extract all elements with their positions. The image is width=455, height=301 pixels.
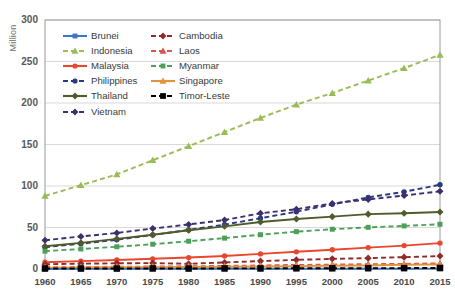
data-point-marker [257,265,263,271]
legend-item-indonesia[interactable]: Indonesia [62,43,150,58]
legend-swatch-philippines [62,75,88,87]
data-point-marker [293,216,300,223]
legend-item-label: Timor-Leste [179,91,230,101]
data-point-marker [329,213,336,220]
legend-item-malaysia[interactable]: Malaysia [62,58,150,73]
series-vietnam [41,188,443,244]
legend-item-timor-leste[interactable]: Timor-Leste [150,89,245,104]
legend-item-label: Cambodia [179,31,223,41]
x-tick-label: 1960 [28,276,62,287]
legend-item-brunei[interactable]: Brunei [62,28,150,43]
legend-swatch-singapore [150,75,176,87]
data-point-marker [294,249,299,254]
data-point-marker [258,251,263,256]
data-point-marker [77,182,84,189]
legend-item-cambodia[interactable]: Cambodia [150,28,245,43]
data-point-marker [160,32,167,39]
data-point-marker [294,229,299,234]
data-point-marker [436,188,443,195]
legend-swatch-indonesia [62,45,88,57]
data-point-marker [366,225,371,230]
data-point-marker [78,265,84,271]
data-point-marker [401,254,408,261]
legend-item-label: Indonesia [91,46,133,56]
legend-item-myanmar[interactable]: Myanmar [150,58,245,73]
data-point-marker [293,101,300,108]
legend-item-label: Singapore [179,76,223,86]
data-point-marker [78,247,83,252]
data-point-marker [185,143,192,150]
data-point-marker [186,255,191,260]
series-line [45,243,440,262]
data-point-marker [77,233,84,240]
x-tick-label: 1985 [208,276,242,287]
data-point-marker [365,265,371,271]
legend-item-label: Malaysia [91,61,129,71]
legend-swatch-laos [150,45,176,57]
legend-item-singapore[interactable]: Singapore [150,74,245,89]
data-point-marker [150,242,155,247]
data-point-marker [401,243,406,248]
x-tick-label: 1970 [100,276,134,287]
data-point-marker [185,265,191,271]
data-point-marker [438,222,443,227]
legend-swatch-vietnam [62,106,88,118]
data-point-marker [222,253,227,258]
data-point-marker [330,227,335,232]
x-tick-label: 1990 [243,276,277,287]
data-point-marker [437,240,442,245]
legend-swatch-myanmar [150,60,176,72]
x-tick-label: 1995 [279,276,313,287]
data-point-marker [72,108,79,115]
data-point-marker [43,249,48,254]
data-point-marker [401,265,407,271]
data-point-marker [149,225,156,232]
data-point-marker [73,33,78,38]
data-point-marker [400,64,407,71]
x-tick-label: 1965 [64,276,98,287]
data-point-marker [72,79,77,84]
data-point-marker [160,93,166,99]
legend-item-thailand[interactable]: Thailand [62,89,150,104]
data-point-marker [329,200,336,207]
x-tick-label: 2000 [315,276,349,287]
data-point-marker [221,217,228,224]
data-point-marker [222,236,227,241]
legend-swatch-brunei [62,30,88,42]
legend-item-label: Thailand [91,91,128,101]
data-point-marker [401,210,408,217]
x-tick-label: 1975 [136,276,170,287]
data-point-marker [366,245,371,250]
data-point-marker [258,232,263,237]
chart-legend: BruneiCambodiaIndonesiaLaosMalaysiaMyanm… [62,28,245,119]
data-point-marker [221,265,227,271]
legend-swatch-cambodia [150,30,176,42]
data-point-marker [293,265,299,271]
data-point-marker [42,265,48,271]
series-myanmar [43,222,443,254]
legend-swatch-thailand [62,90,88,102]
data-point-marker [113,235,120,242]
data-point-marker [437,182,442,187]
data-point-marker [329,265,335,271]
legend-item-vietnam[interactable]: Vietnam [62,104,150,119]
legend-item-laos[interactable]: Laos [150,43,245,58]
legend-item-label: Vietnam [91,107,126,117]
data-point-marker [77,239,84,246]
legend-item-label: Brunei [91,31,119,41]
data-point-marker [114,244,119,249]
x-tick-label: 2015 [423,276,455,287]
data-point-marker [365,211,372,218]
data-point-marker [436,51,443,58]
legend-swatch-malaysia [62,60,88,72]
series-thailand [41,208,443,249]
x-tick-label: 2005 [351,276,385,287]
legend-item-label: Myanmar [179,61,219,71]
data-point-marker [436,253,443,260]
data-point-marker [402,223,407,228]
data-point-marker [186,239,191,244]
legend-item-philippines[interactable]: Philippines [62,74,150,89]
data-point-marker [437,265,443,271]
x-tick-label: 1980 [172,276,206,287]
